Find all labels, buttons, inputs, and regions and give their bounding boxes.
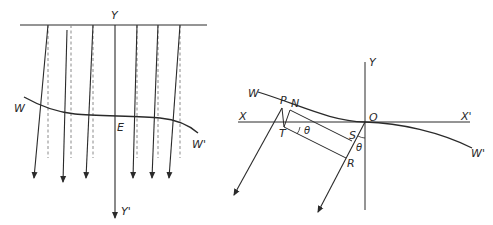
angle-arc-t: [297, 127, 300, 134]
label-r: R: [347, 157, 355, 170]
diagram-canvas: Y W E W' Y' Y W P N X O X' T θ S θ: [0, 0, 493, 225]
label-o: O: [369, 111, 378, 124]
label-w-right: W': [471, 147, 485, 160]
triangle-pnt: [282, 108, 290, 127]
label-w-left: W: [248, 87, 260, 100]
label-t: T: [279, 127, 287, 140]
line-ns: [290, 110, 352, 141]
label-theta-2: θ: [356, 142, 362, 153]
label-theta-1: θ: [304, 125, 310, 136]
label-y-top: Y: [111, 9, 119, 22]
label-s: S: [349, 129, 356, 142]
wavefront-curve: [24, 97, 198, 133]
label-y-bottom: Y': [121, 205, 131, 218]
label-n: N: [291, 97, 299, 110]
right-panel: Y W P N X O X' T θ S θ W' R: [234, 56, 485, 212]
label-e: E: [117, 121, 124, 134]
left-panel: Y W E W' Y': [14, 9, 207, 218]
label-w-left: W: [14, 102, 26, 115]
line-tr: [284, 127, 346, 158]
label-y-axis: Y: [369, 56, 377, 69]
label-x-left: X: [238, 110, 247, 123]
label-w-right: W': [192, 138, 206, 151]
label-x-right: X': [460, 110, 472, 123]
label-p: P: [280, 94, 287, 107]
angle-arc-o: [358, 136, 365, 138]
dashed-rays: [48, 25, 180, 158]
